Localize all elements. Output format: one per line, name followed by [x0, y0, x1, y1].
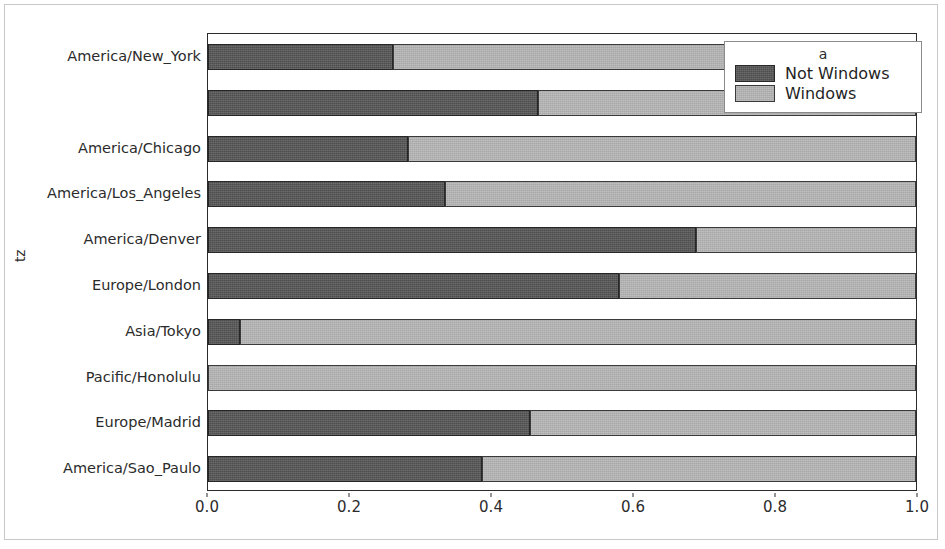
- x-tick-label: 0.4: [479, 500, 503, 515]
- x-axis-tick-group: 0.00.20.40.60.81.0: [207, 493, 917, 523]
- bar-segment-not-windows: [208, 410, 530, 436]
- bar-segment-windows: [482, 456, 916, 482]
- bar-row: [208, 319, 916, 345]
- x-tick-mark: [917, 493, 918, 497]
- legend: a Not WindowsWindows: [724, 41, 922, 113]
- legend-title: a: [735, 47, 911, 62]
- x-tick-label: 0.6: [621, 500, 645, 515]
- bar-row: [208, 181, 916, 207]
- y-tick-label: Pacific/Honolulu: [86, 369, 201, 384]
- x-tick-mark: [775, 493, 776, 497]
- bar-segment-windows: [240, 319, 916, 345]
- bar-row: [208, 273, 916, 299]
- x-tick-label: 1.0: [905, 500, 929, 515]
- x-tick-label: 0.0: [195, 500, 219, 515]
- bar-row: [208, 410, 916, 436]
- y-tick-label: America/Sao_Paulo: [63, 461, 201, 476]
- bar-segment-not-windows: [208, 456, 482, 482]
- bar-segment-not-windows: [208, 319, 240, 345]
- y-tick-label: America/Los_Angeles: [47, 186, 201, 201]
- x-tick-label: 0.2: [337, 500, 361, 515]
- bar-segment-windows: [530, 410, 916, 436]
- bar-segment-windows: [696, 227, 916, 253]
- bar-segment-windows: [408, 136, 916, 162]
- x-tick-mark: [349, 493, 350, 497]
- legend-entry[interactable]: Windows: [735, 85, 911, 102]
- chart-figure: tz America/New_YorkAmerica/ChicagoAmeric…: [0, 0, 945, 549]
- bar-segment-not-windows: [208, 90, 538, 116]
- y-tick-label: Europe/Madrid: [95, 415, 201, 430]
- bar-segment-windows: [619, 273, 916, 299]
- legend-swatch-icon: [735, 85, 775, 102]
- y-tick-label: America/New_York: [67, 49, 201, 64]
- y-tick-label: America/Denver: [84, 232, 201, 247]
- legend-entry-label: Not Windows: [785, 66, 890, 82]
- bar-segment-not-windows: [208, 136, 408, 162]
- x-tick-mark: [207, 493, 208, 497]
- legend-swatch-icon: [735, 65, 775, 82]
- bar-row: [208, 365, 916, 391]
- bar-segment-not-windows: [208, 44, 393, 70]
- x-tick-mark: [491, 493, 492, 497]
- legend-entry-label: Windows: [785, 86, 856, 102]
- x-tick-label: 0.8: [763, 500, 787, 515]
- bar-row: [208, 227, 916, 253]
- y-tick-label: America/Chicago: [78, 140, 201, 155]
- bar-segment-not-windows: [208, 273, 619, 299]
- bar-segment-not-windows: [208, 181, 445, 207]
- legend-entry-group: Not WindowsWindows: [735, 65, 911, 102]
- y-tick-label: Europe/London: [92, 278, 201, 293]
- x-tick-mark: [633, 493, 634, 497]
- bar-row: [208, 136, 916, 162]
- bar-segment-not-windows: [208, 227, 696, 253]
- bar-segment-windows: [208, 365, 916, 391]
- legend-entry[interactable]: Not Windows: [735, 65, 911, 82]
- bar-row: [208, 456, 916, 482]
- bar-segment-windows: [445, 181, 916, 207]
- y-tick-label: Asia/Tokyo: [125, 323, 201, 338]
